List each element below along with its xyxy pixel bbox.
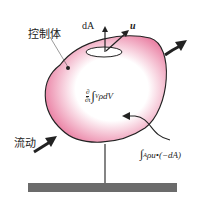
outflow-arrow [165,46,180,55]
area-element-label: dA [82,20,94,31]
normal-arrow-head [102,26,108,32]
control-volume-label: 控制体 [28,25,61,41]
partial-denominator: ∂t [85,97,90,104]
ground-plate [28,183,177,192]
flow-label: 流动 [14,134,36,150]
flux-integrand: ρu•(−dA) [147,150,181,160]
flux-term: ∫ A ρu•(−dA) [140,147,181,162]
control-volume-dot [66,66,70,70]
area-element-ellipse [86,47,122,57]
velocity-label: u [130,20,136,31]
partial-fraction: ∂ ∂t [85,89,90,104]
time-derivative-term: ∂ ∂t ∫ V ρdV [85,88,113,104]
control-volume-leader [50,37,68,67]
integrand: ρdV [99,91,113,101]
inflow-arrow [34,142,50,152]
